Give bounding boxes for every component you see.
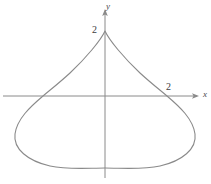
plot-canvas	[0, 0, 211, 184]
y-tick-label-2: 2	[92, 25, 97, 35]
x-axis-label: x	[203, 90, 207, 99]
cardioid-figure: y x 2 2	[0, 0, 211, 184]
y-axis-label: y	[106, 2, 110, 11]
x-tick-label-2: 2	[166, 82, 171, 92]
